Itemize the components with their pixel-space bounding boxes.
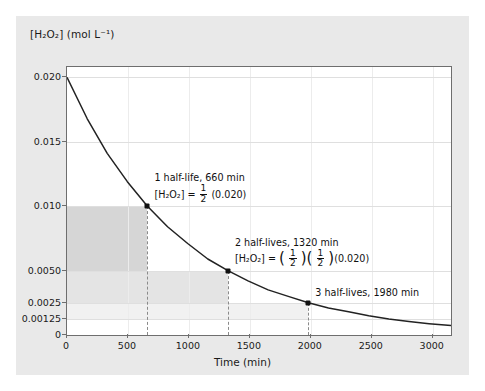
y-tick-mark-5	[62, 141, 66, 142]
annotation-1-value: (0.020)	[211, 189, 246, 200]
x-tick-mark-5	[371, 334, 372, 338]
annotation-half-life-1: 1 half-life, 660 min [H₂O₂] = 1 2 (0.020…	[154, 172, 246, 205]
x-tick-mark-2	[188, 334, 189, 338]
annotation-half-life-3: 3 half-lives, 1980 min	[315, 287, 419, 300]
annotation-2-species: [H₂O₂]	[235, 253, 265, 264]
y-tick-mark-2	[62, 302, 66, 303]
annotation-2-frac2-num: 1	[317, 249, 325, 258]
annotation-3-line1: 3 half-lives, 1980 min	[315, 287, 419, 300]
x-tick-label-3: 1500	[237, 340, 261, 351]
x-tick-label-5: 2500	[359, 340, 383, 351]
figure-panel: [H₂O₂] (mol L⁻¹) 00.001250.00250.00500.0…	[16, 16, 469, 375]
annotation-2-paren-open-1: (	[279, 251, 285, 266]
y-tick-label-3: 0.0050	[28, 264, 61, 275]
annotation-2-equals: =	[268, 253, 276, 264]
x-tick-label-6: 3000	[420, 340, 444, 351]
annotation-1-species: [H₂O₂]	[154, 189, 184, 200]
y-tick-label-0: 0	[55, 329, 61, 340]
annotation-2-formula: [H₂O₂] = ( 1 2 )( 1 2 )(0.020)	[235, 249, 369, 269]
annotation-2-frac2-den: 2	[317, 258, 325, 268]
x-tick-label-2: 1000	[176, 340, 200, 351]
y-tick-label-4: 0.010	[34, 200, 61, 211]
y-tick-label-5: 0.015	[34, 135, 61, 146]
x-tick-mark-0	[66, 334, 67, 338]
annotation-2-paren-open-2: (	[307, 251, 313, 266]
y-tick-mark-4	[62, 205, 66, 206]
x-axis-title: Time (min)	[16, 356, 469, 368]
annotation-2-paren-close-2: )	[328, 251, 334, 266]
y-tick-label-2: 0.0025	[28, 296, 61, 307]
annotation-1-equals: =	[187, 189, 195, 200]
annotation-2-fraction-2: 1 2	[317, 249, 325, 269]
x-tick-label-4: 2000	[298, 340, 322, 351]
x-tick-mark-6	[432, 334, 433, 338]
x-tick-mark-1	[127, 334, 128, 338]
x-tick-label-0: 0	[63, 340, 69, 351]
data-point-half-life-3	[306, 300, 311, 305]
y-tick-label-6: 0.020	[34, 71, 61, 82]
annotation-1-fraction: 1 2	[200, 184, 208, 204]
annotation-2-frac1-num: 1	[289, 249, 297, 258]
x-tick-label-1: 500	[118, 340, 136, 351]
y-tick-mark-6	[62, 76, 66, 77]
annotation-1-formula: [H₂O₂] = 1 2 (0.020)	[154, 185, 246, 205]
annotation-1-frac-num: 1	[200, 184, 208, 193]
y-tick-label-1: 0.00125	[22, 312, 61, 323]
x-tick-mark-4	[310, 334, 311, 338]
annotation-2-fraction-1: 1 2	[289, 249, 297, 269]
y-tick-mark-1	[62, 318, 66, 319]
annotation-half-life-2: 2 half-lives, 1320 min [H₂O₂] = ( 1 2 )(…	[235, 237, 369, 270]
y-axis-title: [H₂O₂] (mol L⁻¹)	[30, 28, 114, 40]
data-point-half-life-2	[225, 268, 230, 273]
y-tick-mark-3	[62, 270, 66, 271]
annotation-2-value: (0.020)	[334, 253, 369, 264]
page-top-strip	[0, 0, 485, 8]
x-tick-mark-3	[249, 334, 250, 338]
annotation-1-frac-den: 2	[200, 194, 208, 204]
annotation-2-line1: 2 half-lives, 1320 min	[235, 237, 369, 250]
annotation-2-frac1-den: 2	[289, 258, 297, 268]
data-point-half-life-1	[145, 204, 150, 209]
